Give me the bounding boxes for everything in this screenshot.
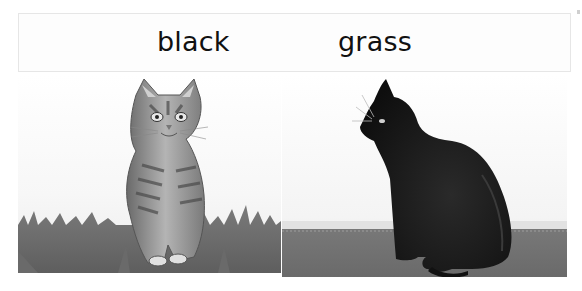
corner-mark	[577, 10, 580, 14]
picture-black-cat	[282, 75, 567, 277]
kitten-shape	[127, 79, 208, 266]
tabby-kitten-illustration	[18, 75, 281, 273]
picture-tabby-kitten	[18, 75, 281, 273]
word-grass: grass	[338, 25, 412, 59]
word-bank-box: black grass	[18, 13, 571, 72]
word-black: black	[157, 25, 230, 59]
black-cat-illustration	[282, 75, 567, 277]
